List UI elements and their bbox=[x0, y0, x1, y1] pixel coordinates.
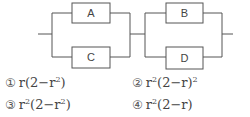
circuit-diagram: A C B D bbox=[0, 0, 250, 75]
block-b-label: B bbox=[181, 7, 188, 19]
option-3[interactable]: ③r2(2−r2) bbox=[5, 97, 71, 112]
option-4[interactable]: ④r2(2−r) bbox=[132, 97, 193, 112]
option-2[interactable]: ②r2(2−r)2 bbox=[132, 75, 198, 90]
option-1[interactable]: ①r(2−r2) bbox=[5, 75, 66, 90]
block-c-label: C bbox=[87, 51, 95, 63]
block-d-label: D bbox=[181, 52, 189, 64]
block-a-label: A bbox=[87, 7, 95, 19]
